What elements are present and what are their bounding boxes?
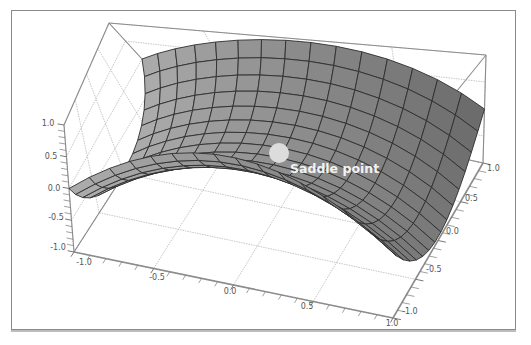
y-tick-label: 1.0: [487, 164, 500, 173]
y-tick-label: -0.5: [426, 265, 442, 274]
x-tick-label: 1.0: [386, 319, 399, 328]
z-tick-label: -1.0: [50, 243, 66, 252]
y-tick-label: 0.0: [446, 227, 459, 236]
z-tick-label: -0.5: [48, 213, 64, 222]
x-tick-label: -1.0: [76, 258, 92, 267]
x-tick-label: 0.5: [301, 302, 314, 311]
x-tick-label: -0.5: [149, 273, 165, 282]
saddle-point-label: Saddle point: [290, 161, 379, 176]
saddle-point-marker: [269, 143, 289, 163]
z-tick-label: 1.0: [42, 119, 55, 128]
saddle-surface-plot: Saddle point1.00.50.0-0.5-1.0-1.0-0.50.0…: [0, 0, 531, 345]
z-tick-label: 0.0: [48, 184, 61, 193]
y-tick-label: -1.0: [402, 307, 418, 316]
y-tick-label: 0.5: [465, 194, 478, 203]
z-tick-label: 0.5: [45, 152, 58, 161]
x-tick-label: 0.0: [224, 287, 237, 296]
